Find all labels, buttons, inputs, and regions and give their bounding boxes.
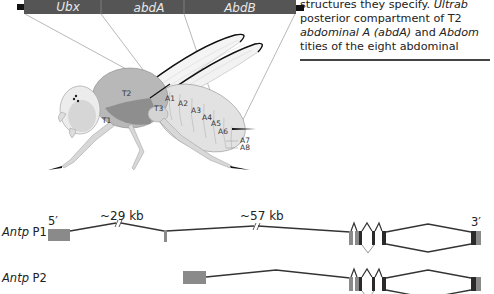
alt-splice-junction [362, 245, 374, 253]
bar-right-cap [296, 5, 304, 11]
segment-label-a3: A3 [191, 106, 201, 115]
segment-label-t2: T2 [121, 89, 132, 98]
splice-junction [386, 270, 471, 278]
exon-utr [355, 277, 359, 291]
segment-label-a2: A2 [178, 99, 188, 108]
proboscis [69, 128, 76, 138]
splice-junction [351, 269, 357, 277]
exon-utr [48, 229, 70, 241]
transcript-label-p2: Antp P2 [1, 271, 47, 285]
leg-tip [48, 166, 62, 170]
exon-utr [355, 231, 359, 245]
transcript-p2 [183, 270, 350, 284]
intron-line [206, 270, 350, 278]
gene-label-ubx: Ubx [56, 0, 80, 14]
intron-line [258, 226, 350, 232]
exon-coding [471, 277, 476, 291]
exon-utr [349, 277, 353, 291]
exon-cluster-p1 [349, 223, 481, 253]
exon-coding [382, 277, 386, 291]
gene-label-abdb: AbdB [223, 1, 256, 15]
splice-junction [375, 269, 382, 277]
intron-line [166, 226, 254, 231]
exon-coding [471, 231, 476, 245]
exon-utr [164, 230, 167, 242]
bar-left-cap [17, 4, 25, 10]
segment-label-t3: T3 [153, 104, 164, 113]
leg-tip [230, 166, 250, 170]
three-prime-label: 3′ [471, 215, 481, 229]
intron-size-2: ~57 kb [240, 209, 284, 223]
exon-coding [372, 231, 375, 245]
segment-label-t1: T1 [101, 116, 112, 125]
ocellus [77, 100, 79, 102]
exon-coding [382, 231, 386, 245]
ocellus [75, 95, 77, 97]
gene-structure: Antp P1 Antp P2 5′ 3′ ~29 kb ~57 kb [1, 209, 481, 294]
leg-middle [128, 124, 144, 170]
segment-label-a8: A8 [240, 143, 250, 152]
splice-junction [386, 224, 471, 232]
intron-line [70, 223, 116, 231]
splice-junction [362, 269, 372, 277]
fly-illustration: T1 T2 T3 A1 A2 A3 A4 A5 A6 A7 A8 [48, 34, 262, 170]
five-prime-label: 5′ [48, 214, 58, 228]
intron-line [121, 223, 164, 231]
segment-label-a1: A1 [165, 94, 175, 103]
ocellus [73, 98, 75, 100]
alt-splice-junction [386, 244, 471, 252]
exon-coding [359, 231, 362, 245]
transcript-label-p1: Antp P1 [1, 225, 47, 239]
transcript-p1 [48, 220, 350, 242]
splice-junction [375, 223, 382, 231]
splice-junction [362, 223, 372, 231]
hox-complex-bar: Ubx abdA AbdB [17, 0, 304, 15]
exon-utr [349, 231, 353, 245]
exon-coding [372, 277, 375, 291]
compound-eye [68, 100, 96, 132]
exon-coding [359, 277, 362, 291]
splice-junction [351, 223, 357, 231]
gene-label-abda: abdA [134, 1, 165, 15]
exon-cluster-p2 [349, 269, 481, 294]
alt-splice-junction [386, 290, 471, 294]
exon-utr [476, 277, 481, 291]
segment-label-a6: A6 [218, 127, 228, 136]
exon-utr [183, 271, 206, 284]
exon-utr [476, 231, 481, 245]
